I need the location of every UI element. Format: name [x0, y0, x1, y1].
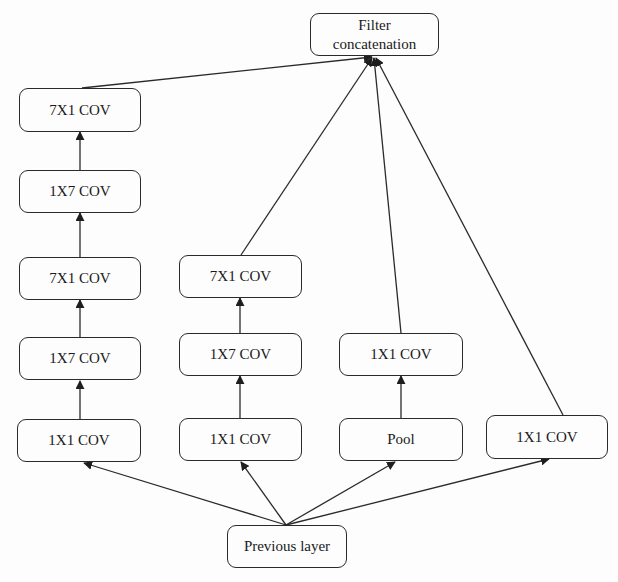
- edge-input-to-b4: [286, 459, 549, 525]
- edge-input-to-b3: [286, 462, 395, 525]
- node-label: 1X1 COV: [370, 345, 431, 364]
- node-label: 7X1 COV: [49, 101, 110, 120]
- edge-input-to-b1: [84, 463, 286, 525]
- filter-concatenation-node: Filter concatenation: [310, 13, 439, 56]
- node-label: 7X1 COV: [210, 267, 271, 286]
- edge-b2-to-concat: [241, 58, 372, 255]
- b3-layer-pool: Pool: [339, 418, 463, 461]
- b1-layer-7x1-cov-2: 7X1 COV: [19, 88, 141, 132]
- node-label: 1X7 COV: [210, 345, 271, 364]
- b2-layer-1x7-cov: 1X7 COV: [179, 333, 302, 376]
- previous-layer-node: Previous layer: [227, 525, 347, 568]
- node-label: Previous layer: [244, 537, 330, 556]
- node-label: 1X7 COV: [49, 182, 110, 201]
- concat-label-line2: concatenation: [333, 35, 416, 54]
- node-label: 1X1 COV: [516, 428, 577, 447]
- b4-layer-1x1-cov: 1X1 COV: [486, 415, 608, 459]
- b2-layer-1x1-cov: 1X1 COV: [179, 418, 302, 461]
- node-label: Pool: [387, 430, 415, 449]
- b1-layer-7x1-cov: 7X1 COV: [19, 257, 141, 300]
- b1-layer-1x7-cov-2: 1X7 COV: [19, 170, 141, 213]
- edge-b1-to-concat: [82, 57, 372, 88]
- b3-layer-1x1-cov: 1X1 COV: [339, 333, 463, 376]
- node-label: 1X7 COV: [49, 349, 110, 368]
- b2-layer-7x1-cov: 7X1 COV: [179, 255, 302, 298]
- b1-layer-1x7-cov: 1X7 COV: [19, 337, 141, 380]
- edge-input-to-b2: [241, 462, 286, 525]
- concat-label-line1: Filter: [358, 16, 391, 35]
- b1-layer-1x1-cov: 1X1 COV: [17, 419, 141, 462]
- node-label: 1X1 COV: [48, 431, 109, 450]
- node-label: 1X1 COV: [210, 430, 271, 449]
- node-label: 7X1 COV: [49, 269, 110, 288]
